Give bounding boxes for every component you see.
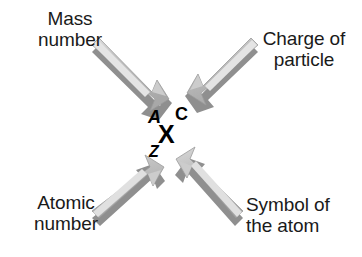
label-charge-of-particle-line2: particle: [250, 49, 358, 70]
label-symbol-of-atom-line2: the atom: [246, 215, 360, 236]
label-atomic-number: Atomic number: [14, 192, 118, 234]
arrow-symbol: [175, 147, 243, 226]
label-mass-number-line2: number: [18, 29, 122, 50]
label-atomic-number-line2: number: [14, 213, 118, 234]
arrow-charge: [185, 38, 258, 113]
label-mass-number-line1: Mass: [18, 8, 122, 29]
label-charge-of-particle-line1: Charge of: [250, 28, 358, 49]
nuclide-element-symbol: X: [158, 122, 175, 147]
label-charge-of-particle: Charge of particle: [250, 28, 358, 70]
diagram-canvas: Mass number Charge of particle Atomic nu…: [0, 0, 362, 257]
label-atomic-number-line1: Atomic: [14, 192, 118, 213]
nuclide-charge-letter: C: [175, 105, 188, 123]
label-symbol-of-atom: Symbol of the atom: [246, 194, 360, 236]
label-symbol-of-atom-line1: Symbol of: [246, 194, 360, 215]
nuclide-atomic-number-letter: Z: [149, 144, 159, 160]
label-mass-number: Mass number: [18, 8, 122, 50]
